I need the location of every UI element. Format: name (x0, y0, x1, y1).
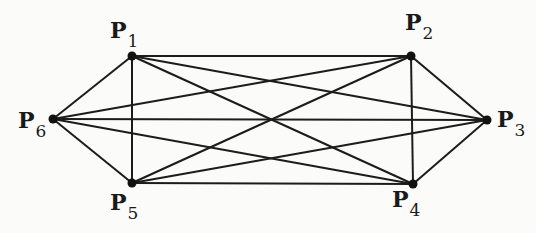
edge-p2-p6 (53, 56, 411, 119)
vertex-p6 (49, 115, 58, 124)
vertex-subscript: 1 (128, 31, 139, 51)
edge-p5-p6 (53, 119, 132, 183)
vertex-p4 (409, 180, 418, 189)
complete-graph-k6: P1P2P3P4P5P6 (0, 0, 536, 233)
edge-p4-p6 (53, 119, 413, 184)
edge-p2-p3 (411, 56, 487, 120)
vertex-p5 (128, 179, 137, 188)
edge-p1-p6 (53, 56, 132, 119)
vertex-label-p6: P6 (18, 107, 46, 141)
vertex-subscript: 2 (423, 23, 434, 43)
vertex-subscript: 4 (410, 200, 421, 220)
edge-p1-p3 (132, 56, 487, 120)
vertex-label-p4: P4 (392, 186, 420, 220)
edge-p3-p4 (413, 120, 487, 184)
edge-p4-p5 (132, 183, 413, 184)
vertex-subscript: 3 (515, 120, 526, 140)
vertex-label-p3: P3 (497, 106, 525, 140)
vertex-label-p5: P5 (110, 189, 138, 223)
edges-group (53, 56, 487, 184)
vertex-subscript: 6 (36, 121, 47, 141)
vertex-label-p2: P2 (405, 9, 433, 43)
vertex-subscript: 5 (128, 203, 139, 223)
vertex-p3 (483, 116, 492, 125)
graph-diagram: P1P2P3P4P5P6 (0, 0, 536, 233)
edge-p3-p6 (53, 119, 487, 120)
labels-group: P1P2P3P4P5P6 (18, 9, 525, 223)
edge-p3-p5 (132, 120, 487, 183)
vertex-p2 (407, 52, 416, 61)
vertex-p1 (128, 52, 137, 61)
vertex-label-p1: P1 (110, 17, 138, 51)
